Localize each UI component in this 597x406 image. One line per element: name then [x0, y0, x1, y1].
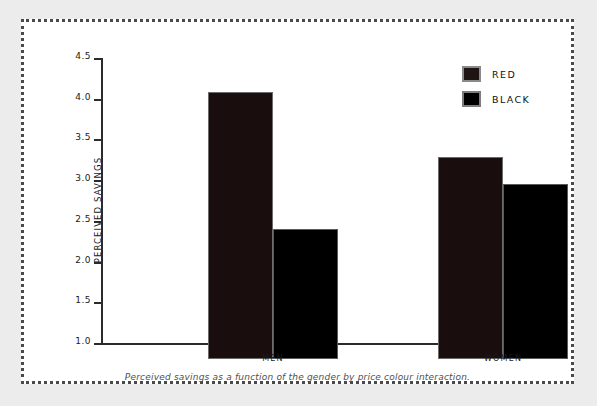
bar-women-black	[503, 184, 568, 359]
y-axis-tick-label: 3.5	[75, 132, 91, 142]
y-axis-tick-mark	[94, 302, 101, 304]
y-axis-tick-label: 4.5	[75, 51, 91, 61]
y-axis-tick-mark	[94, 343, 101, 345]
y-axis-tick-mark	[94, 221, 101, 223]
bar-men-red	[208, 92, 273, 359]
legend-swatch-red	[462, 66, 481, 82]
figure-caption: Perceived savings as a function of the g…	[24, 372, 571, 382]
bar-men-black	[273, 229, 338, 359]
bar-women-red	[438, 157, 503, 359]
legend-swatch-black	[462, 91, 481, 107]
y-axis-tick-mark	[94, 58, 101, 60]
y-axis-title: PERCEIVED SAVINGS	[93, 156, 103, 262]
y-axis-tick-label: 1.5	[75, 295, 91, 305]
y-axis-tick-label: 1.0	[75, 336, 91, 346]
y-axis-tick-label: 3.0	[75, 173, 91, 183]
y-axis-tick-label: 2.0	[75, 255, 91, 265]
legend-item-black: BLACK	[462, 91, 530, 107]
y-axis-tick-mark	[94, 139, 101, 141]
legend-label-black: BLACK	[492, 94, 530, 105]
y-axis-tick-label: 2.5	[75, 214, 91, 224]
chart-legend: REDBLACK	[462, 66, 530, 116]
x-axis-label-men: MEN	[262, 354, 284, 363]
figure-card: PERCEIVED SAVINGS 1.01.52.02.53.03.54.04…	[21, 19, 574, 384]
x-axis-label-women: WOMEN	[484, 354, 522, 363]
y-axis-tick-label: 4.0	[75, 92, 91, 102]
y-axis-tick-mark	[94, 180, 101, 182]
figure-page: PERCEIVED SAVINGS 1.01.52.02.53.03.54.04…	[0, 0, 597, 406]
y-axis-tick-mark	[94, 99, 101, 101]
legend-label-red: RED	[492, 69, 516, 80]
legend-item-red: RED	[462, 66, 530, 82]
y-axis-tick-mark	[94, 262, 101, 264]
